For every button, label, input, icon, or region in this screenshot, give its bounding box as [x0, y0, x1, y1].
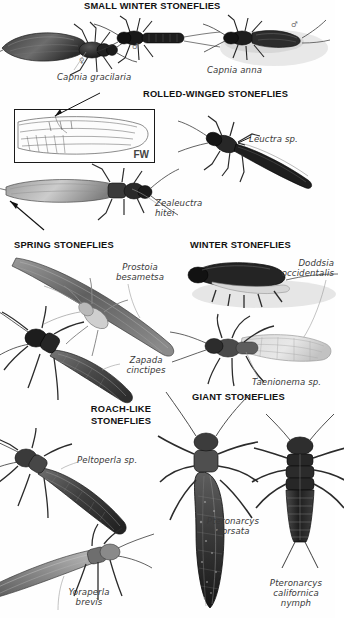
section-heading-roach-like: ROACH-LIKE STONEFLIES: [69, 404, 173, 427]
section-heading-rolled-winged: ROLLED-WINGED STONEFLIES: [143, 89, 288, 101]
species-label-peltoperla-text: Peltoperla sp.: [77, 455, 137, 465]
specimen-leuctra-sp: [196, 114, 341, 194]
leader-line-zealeuctra: [4, 196, 50, 232]
forewing-tag: FW: [133, 149, 149, 160]
species-label-doddsia-occidentalis: Doddsia occidentalis: [258, 258, 334, 278]
leader-line-zapada: [100, 358, 122, 376]
species-label-zapada-cinctipes: Zapada cinctipes: [118, 355, 174, 375]
leader-line-taenionema: [240, 350, 262, 380]
specimen-pteronarcys-californica-nymph: [256, 428, 344, 568]
species-label-capnia-gracilaria: Capnia gracilaria: [57, 72, 131, 82]
sex-symbol-male-capnia: ♂: [132, 42, 139, 51]
species-label-peltoperla-sp: Peltoperla sp.: [77, 455, 137, 465]
species-label-leuctra-sp: Leuctra sp.: [249, 134, 298, 144]
specimen-capnia-male: [112, 16, 217, 66]
species-label-taenionema-sp: Taenionema sp.: [252, 377, 321, 387]
species-label-prostoia-besametsa: Prostoia besametsa: [108, 262, 172, 282]
sex-symbol-female: ♀: [79, 56, 85, 65]
section-heading-spring: SPRING STONEFLIES: [14, 240, 114, 252]
leader-line-forewing-inset: [45, 92, 105, 120]
leader-line-yoraperla: [50, 574, 70, 612]
section-heading-giant: GIANT STONEFLIES: [192, 392, 285, 404]
sex-symbol-male-anna: ♂: [291, 20, 298, 29]
species-label-yoraperla-brevis: Yoraperla brevis: [62, 587, 116, 607]
species-label-pteronarcys-californica-nymph: Pteronarcys californica nymph: [258, 578, 334, 608]
leader-line-leuctra: [236, 133, 254, 147]
section-heading-small-winter: SMALL WINTER STONEFLIES: [84, 1, 220, 13]
specimen-capnia-anna: [218, 14, 336, 72]
leader-line-peltoperla: [60, 458, 80, 474]
leader-line-zealeuctra-label: [130, 186, 162, 208]
section-heading-winter: WINTER STONEFLIES: [190, 240, 291, 252]
species-label-zealeuctra-hitei: Zealeuctra hitei: [155, 198, 202, 218]
species-label-capnia-anna: Capnia anna: [207, 65, 262, 75]
